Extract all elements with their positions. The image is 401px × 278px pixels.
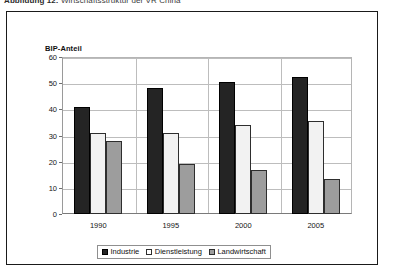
bar — [324, 179, 340, 214]
bar — [235, 125, 251, 214]
y-axis-tick-label: 0 — [35, 210, 57, 219]
bar — [106, 141, 122, 214]
bar — [219, 82, 235, 214]
y-axis-tick-label: 60 — [35, 53, 57, 62]
chart-legend: IndustrieDienstleistungLandwirtschaft — [97, 245, 271, 259]
legend-swatch-icon — [102, 249, 108, 255]
y-axis-tick-mark — [59, 57, 62, 58]
y-axis-tick-label: 10 — [35, 183, 57, 192]
x-axis-tick-label: 2000 — [235, 221, 252, 230]
legend-item: Industrie — [102, 247, 139, 256]
x-axis-tick-label: 2005 — [307, 221, 324, 230]
legend-item: Landwirtschaft — [209, 247, 266, 256]
bar — [308, 121, 324, 214]
bar — [163, 133, 179, 214]
bar — [179, 164, 195, 214]
bars-layer — [62, 57, 352, 214]
y-axis-tick-mark — [59, 83, 62, 84]
y-axis-tick-label: 50 — [35, 79, 57, 88]
bar — [292, 77, 308, 214]
bar — [147, 88, 163, 214]
bar — [74, 107, 90, 214]
y-axis-tick-mark — [59, 162, 62, 163]
legend-item: Dienstleistung — [146, 247, 202, 256]
legend-label: Dienstleistung — [155, 247, 202, 256]
legend-label: Industrie — [111, 247, 140, 256]
chart: 0102030405060 1990199520002005 — [0, 0, 401, 278]
y-axis-tick-mark — [59, 136, 62, 137]
legend-label: Landwirtschaft — [217, 247, 265, 256]
legend-swatch-icon — [209, 249, 215, 255]
y-axis-tick-mark — [59, 214, 62, 215]
y-axis-tick-mark — [59, 188, 62, 189]
bar — [90, 133, 106, 214]
bar — [251, 170, 267, 214]
legend-swatch-icon — [146, 249, 152, 255]
y-axis-tick-label: 20 — [35, 157, 57, 166]
y-axis-tick-label: 40 — [35, 105, 57, 114]
y-axis-tick-label: 30 — [35, 131, 57, 140]
x-axis-tick-label: 1990 — [90, 221, 107, 230]
y-axis-tick-mark — [59, 109, 62, 110]
x-axis-tick-label: 1995 — [162, 221, 179, 230]
